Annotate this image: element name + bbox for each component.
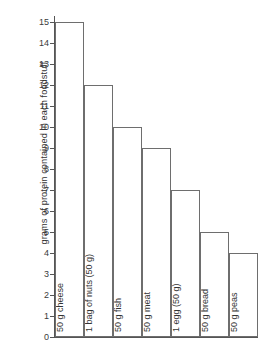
y-tick-label: 7 (9, 186, 49, 195)
bar-label: 50 g peas (230, 292, 239, 332)
bar-label: 50 g cheese (56, 283, 65, 332)
x-axis-line (54, 337, 258, 338)
y-tick-label: 12 (9, 81, 49, 90)
y-tick-label: 9 (9, 144, 49, 153)
bar: 50 g peas (229, 253, 258, 337)
y-tick-label: 13 (9, 60, 49, 69)
bar-label: 50 g bread (201, 289, 210, 332)
bar: 50 g fish (113, 127, 142, 337)
y-tick-label: 3 (9, 270, 49, 279)
y-tick-mark (50, 337, 55, 338)
bar: 50 g cheese (55, 22, 84, 337)
y-tick-label: 5 (9, 228, 49, 237)
y-tick-label: 15 (9, 18, 49, 27)
bar-label: 1 egg (50 g) (172, 283, 181, 332)
bar-label: 50 g fish (114, 298, 123, 332)
y-tick-label: 8 (9, 165, 49, 174)
bar: 1 egg (50 g) (171, 190, 200, 337)
bar-label: 50 g meat (143, 292, 152, 332)
y-tick-label: 11 (9, 102, 49, 111)
y-tick-label: 6 (9, 207, 49, 216)
bar: 50 g bread (200, 232, 229, 337)
y-tick-label: 0 (9, 333, 49, 342)
protein-bar-chart: grams of protein contained in each foods… (0, 0, 268, 359)
y-tick-label: 1 (9, 312, 49, 321)
y-tick-label: 14 (9, 39, 49, 48)
bar: 50 g meat (142, 148, 171, 337)
bar-label: 1 bag of nuts (50 g) (85, 254, 94, 332)
plot-area: 50 g cheese1 bag of nuts (50 g)50 g fish… (55, 22, 258, 337)
y-tick-label: 2 (9, 291, 49, 300)
y-tick-label: 10 (9, 123, 49, 132)
y-tick-label: 4 (9, 249, 49, 258)
bar: 1 bag of nuts (50 g) (84, 85, 113, 337)
